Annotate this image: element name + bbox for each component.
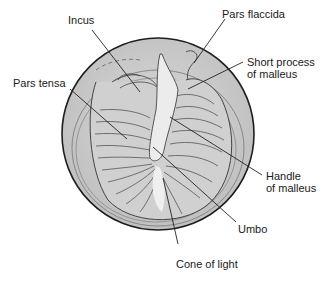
label-short-process-line1: Short process	[247, 56, 315, 68]
label-handle-line1: Handle	[266, 170, 301, 182]
label-incus: Incus	[68, 14, 94, 26]
label-pars-flaccida: Pars flaccida	[222, 8, 285, 20]
label-handle-line2: of malleus	[266, 182, 316, 194]
eardrum-illustration	[0, 0, 327, 282]
label-pars-tensa: Pars tensa	[13, 77, 66, 89]
label-cone-of-light: Cone of light	[176, 258, 238, 270]
label-short-process-line2: of malleus	[247, 68, 297, 80]
label-umbo: Umbo	[238, 223, 267, 235]
